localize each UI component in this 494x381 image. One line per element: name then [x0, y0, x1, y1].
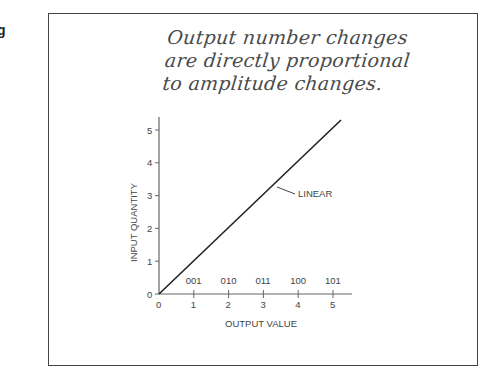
binary-code-labels: 001010011100101 — [186, 275, 341, 286]
y-ticks: 012345 — [147, 125, 159, 300]
binary-code-label: 001 — [186, 275, 202, 286]
x-tick-label: 3 — [260, 299, 265, 310]
x-tick-label: 2 — [226, 299, 231, 310]
y-axis-title: INPUT QUANTITY — [128, 182, 139, 262]
linear-series-line — [159, 120, 341, 294]
x-tick-label: 1 — [191, 299, 196, 310]
y-tick-label: 1 — [147, 256, 152, 267]
binary-code-label: 100 — [290, 275, 306, 286]
x-tick-label: 5 — [330, 299, 335, 310]
y-tick-label: 2 — [147, 223, 152, 234]
y-tick-label: 3 — [147, 190, 152, 201]
linear-series-label: LINEAR — [298, 188, 332, 199]
binary-code-label: 011 — [255, 275, 270, 286]
x-axis-title: OUTPUT VALUE — [225, 318, 297, 329]
y-tick-label: 5 — [147, 125, 152, 136]
y-tick-label: 0 — [147, 289, 152, 300]
line-chart: 012345 012345 001010011100101 LINEAR OUT… — [0, 0, 494, 381]
linear-leader-line — [277, 187, 295, 194]
binary-code-label: 010 — [221, 275, 237, 286]
x-ticks: 012345 — [156, 290, 335, 310]
x-tick-label: 4 — [295, 299, 300, 310]
x-tick-label: 0 — [156, 299, 161, 310]
y-tick-label: 4 — [147, 157, 152, 168]
binary-code-label: 101 — [325, 275, 341, 286]
